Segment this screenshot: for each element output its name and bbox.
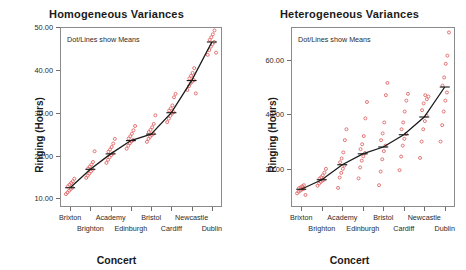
data-point <box>91 161 94 164</box>
x-tick-mark <box>301 207 302 211</box>
data-point <box>379 170 382 173</box>
data-point <box>206 53 209 56</box>
data-point <box>447 31 450 34</box>
data-point <box>359 148 362 151</box>
x-tick-mark <box>404 207 405 211</box>
x-tick-label: Dublin <box>435 224 455 233</box>
data-point <box>174 92 177 95</box>
data-point <box>381 158 384 161</box>
x-tick-label: Brixton <box>290 213 312 222</box>
x-tick-label: Bristol <box>141 213 161 222</box>
data-point <box>359 166 362 169</box>
x-tick-mark <box>383 207 384 211</box>
plot-area: Dot/Lines show Means 20.0040.0060.00Brix… <box>291 27 455 207</box>
data-point <box>105 161 108 164</box>
data-point <box>441 124 444 127</box>
data-point <box>365 101 368 104</box>
x-tick-label: Newcastle <box>175 213 208 222</box>
y-tick-label: 50.00 <box>22 23 53 32</box>
data-point <box>130 132 133 135</box>
data-point <box>386 81 389 84</box>
data-point <box>345 128 348 131</box>
x-tick-mark <box>131 207 132 211</box>
data-point <box>427 95 430 98</box>
data-point <box>343 139 346 142</box>
data-point <box>151 126 154 129</box>
data-point <box>169 107 172 110</box>
data-point <box>341 167 344 170</box>
data-point <box>362 135 365 138</box>
x-tick-mark <box>70 207 71 211</box>
data-point <box>442 110 445 113</box>
x-tick-label: Edinburgh <box>346 224 379 233</box>
data-point <box>406 92 409 95</box>
figure-root: Homogeneous Variances Ringing (Hours) Co… <box>0 0 466 270</box>
data-point <box>381 132 384 135</box>
data-point <box>145 140 148 143</box>
data-point <box>421 109 424 112</box>
x-tick-label: Cardiff <box>393 224 414 233</box>
data-point <box>213 29 216 32</box>
x-tick-mark <box>424 207 425 211</box>
x-tick-mark <box>212 207 213 211</box>
data-point <box>215 51 218 54</box>
data-point <box>357 177 360 180</box>
x-tick-label: Brixton <box>59 213 81 222</box>
y-tick-mark <box>56 198 60 199</box>
x-tick-label: Academy <box>96 213 126 222</box>
x-tick-label: Cardiff <box>161 224 182 233</box>
data-point <box>443 76 446 79</box>
data-point <box>337 186 340 189</box>
data-point <box>340 157 343 160</box>
y-tick-mark <box>56 113 60 114</box>
chart-canvas <box>60 27 222 207</box>
data-point <box>403 110 406 113</box>
data-point <box>110 146 113 149</box>
x-tick-label: Brighton <box>77 224 104 233</box>
x-tick-mark <box>445 207 446 211</box>
data-point <box>112 142 115 145</box>
data-point <box>380 139 383 142</box>
data-point <box>445 91 448 94</box>
x-tick-label: Academy <box>327 213 357 222</box>
data-point <box>134 125 137 128</box>
plot-area: Dot/Lines show Means 10.0020.0030.0040.0… <box>60 27 222 207</box>
data-point <box>360 159 363 162</box>
data-point <box>398 169 401 172</box>
data-point <box>383 121 386 124</box>
data-point <box>132 129 135 132</box>
data-point <box>401 144 404 147</box>
y-tick-label: 60.00 <box>253 55 284 64</box>
data-point <box>73 177 76 180</box>
data-point <box>382 150 385 153</box>
data-point <box>364 117 367 120</box>
chart-title: Heterogeneous Variances <box>233 8 466 20</box>
data-point <box>340 171 343 174</box>
data-point <box>342 151 345 154</box>
y-tick-mark <box>56 70 60 71</box>
data-point <box>166 121 169 124</box>
chart-panel-heterogeneous: Heterogeneous Variances Ringing (Hours) … <box>233 0 466 270</box>
y-tick-mark <box>287 169 291 170</box>
data-point <box>191 71 194 74</box>
y-tick-mark <box>56 27 60 28</box>
y-tick-label: 10.00 <box>22 194 53 203</box>
data-point <box>152 122 155 125</box>
x-axis-title: Concert <box>233 254 466 266</box>
y-tick-label: 30.00 <box>22 108 53 117</box>
data-point <box>405 99 408 102</box>
x-tick-mark <box>90 207 91 211</box>
y-tick-label: 20.00 <box>253 164 284 173</box>
data-point <box>419 156 422 159</box>
data-point <box>424 94 427 97</box>
y-axis-title: Ringing (Hours) <box>267 97 278 173</box>
y-tick-mark <box>56 156 60 157</box>
data-point <box>323 171 326 174</box>
data-point <box>193 67 196 70</box>
x-tick-mark <box>171 207 172 211</box>
data-point <box>384 94 387 97</box>
y-tick-label: 20.00 <box>22 151 53 160</box>
data-point <box>422 102 425 105</box>
data-point <box>361 143 364 146</box>
data-point <box>400 155 403 158</box>
